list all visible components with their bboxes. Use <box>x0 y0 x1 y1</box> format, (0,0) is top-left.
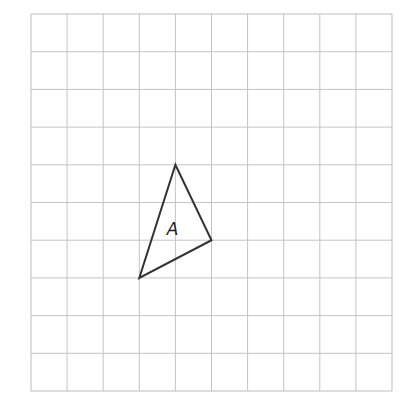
triangle-a-label: A <box>166 219 179 239</box>
grid-diagram: A <box>0 0 416 403</box>
grid-lines <box>31 14 392 391</box>
